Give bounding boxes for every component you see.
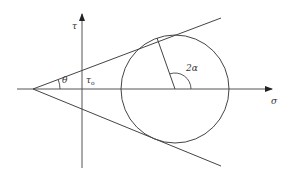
two-alpha-label: 2α: [186, 64, 198, 73]
theta-arc: [58, 80, 60, 90]
lower-envelope-line: [33, 89, 221, 166]
tau0-label: τo: [86, 76, 95, 86]
mohr-coulomb-diagram: [0, 0, 299, 185]
tau-axis-label: τ: [72, 22, 77, 31]
tau0-subscript: o: [91, 79, 95, 86]
theta-label: θ: [62, 76, 67, 85]
radius-line: [157, 38, 175, 89]
sigma-axis-label: σ: [271, 97, 277, 106]
two-alpha-arc: [170, 73, 191, 89]
